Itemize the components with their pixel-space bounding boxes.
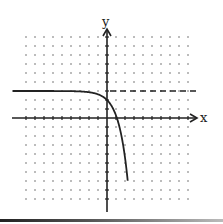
function-graph xyxy=(0,0,223,224)
y-axis-label: y xyxy=(102,15,109,28)
function-curve xyxy=(13,91,128,181)
x-axis-label: x xyxy=(200,111,207,124)
bottom-rule xyxy=(0,219,223,222)
